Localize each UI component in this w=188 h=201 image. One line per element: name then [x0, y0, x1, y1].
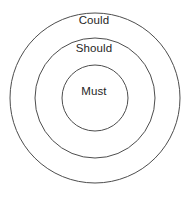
ring-label-should: Should: [0, 42, 188, 55]
diagram-canvas: Could Should Must: [0, 0, 188, 201]
concentric-circles-graphic: [0, 0, 188, 201]
ring-label-must: Must: [0, 85, 188, 98]
circle-must: [62, 65, 128, 131]
ring-label-could: Could: [0, 14, 188, 27]
